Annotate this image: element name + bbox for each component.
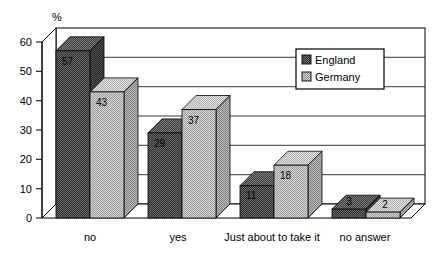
bar-germany-just[interactable]: 18 [274,151,322,218]
y-tick-label-60: 60 [20,36,32,48]
bar-value-label: 11 [246,190,257,201]
y-axis-unit-label: % [52,11,62,23]
bar-value-label: 18 [280,170,292,181]
x-category-label-just-about-to-take-it: Just about to take it [224,231,319,243]
bar-side-face [124,78,138,218]
legend-item-germany[interactable]: Germany [302,71,361,83]
chart-canvas: 60 50 40 30 20 10 0 % 57 [0,0,437,262]
legend-label-germany: Germany [315,71,361,83]
x-category-label-no: no [84,231,96,243]
bar-germany-yes[interactable]: 37 [182,96,230,219]
bar-value-label: 57 [62,56,74,67]
x-category-label-no-answer: no answer [340,231,391,243]
y-tick-label-0: 0 [26,212,32,224]
bar-value-label: 37 [188,115,200,126]
legend-swatch-germany-icon [302,72,311,81]
y-tick-label-10: 10 [20,183,32,195]
legend[interactable]: England Germany [296,49,384,89]
x-category-label-yes: yes [169,231,187,243]
bar-front-face [332,209,366,218]
bar-chart-figure: 60 50 40 30 20 10 0 % 57 [0,0,437,262]
bar-side-face [216,96,230,219]
x-axis-labels: no yes Just about to take it no answer [84,231,391,243]
y-tick-label-20: 20 [20,153,32,165]
legend-swatch-england-icon [302,55,311,64]
y-tick-label-40: 40 [20,95,32,107]
left-wall [42,28,56,218]
bar-front-face [90,92,124,218]
bar-group-no-answer: 3 2 [332,195,414,218]
y-axis: 60 50 40 30 20 10 0 [20,36,42,224]
legend-label-england: England [315,54,355,66]
bar-value-label: 2 [382,199,388,210]
bar-value-label: 3 [346,196,352,207]
bar-front-face [366,212,400,218]
bar-front-face [56,51,90,218]
bar-value-label: 43 [96,97,108,108]
bar-value-label: 29 [154,138,166,149]
y-tick-label-30: 30 [20,124,32,136]
y-tick-label-50: 50 [20,65,32,77]
legend-item-england[interactable]: England [302,54,355,66]
bar-germany-no[interactable]: 43 [90,78,138,218]
